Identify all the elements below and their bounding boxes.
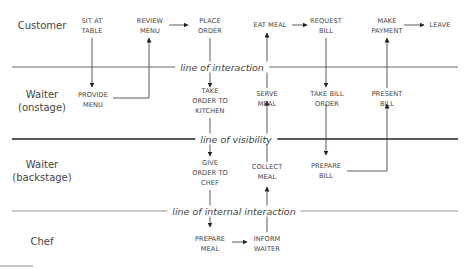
- node-make-payment: MAKE PAYMENT: [371, 16, 402, 36]
- row-label-waiter-onstage: Waiter (onstage): [0, 88, 87, 114]
- arrow-prepare-bill-to-present: [347, 104, 387, 171]
- node-give-order-to-chef: GIVE ORDER TO CHEF: [192, 158, 228, 188]
- line-of-visibility-label: line of visibility: [195, 134, 277, 145]
- node-place-order: PLACE ORDER: [198, 16, 222, 36]
- node-collect-meal: COLLECT MEAL: [252, 162, 283, 182]
- row-label-chef: Chef: [0, 235, 87, 248]
- corner-mark: [0, 265, 33, 267]
- line-of-internal-interaction-label: line of internal interaction: [167, 206, 300, 217]
- row-label-customer: Customer: [0, 19, 87, 32]
- service-blueprint-diagram: line of interaction line of visibility l…: [0, 0, 465, 269]
- node-present-bill: PRESENT BILL: [372, 89, 403, 109]
- node-take-bill-order: TAKE BILL ORDER: [310, 89, 343, 109]
- node-prepare-bill: PREPARE BILL: [311, 161, 341, 181]
- node-leave: LEAVE: [429, 20, 450, 30]
- node-sit-at-table: SIT AT TABLE: [82, 16, 103, 36]
- arrow-provide-menu-to-review: [113, 38, 149, 98]
- node-eat-meal: EAT MEAL: [253, 20, 286, 30]
- node-prepare-meal: PREPARE MEAL: [195, 234, 225, 254]
- node-provide-menu: PROVIDE MENU: [78, 90, 108, 110]
- node-review-menu: REVIEW MENU: [137, 16, 164, 36]
- node-serve-meal: SERVE MEAL: [256, 89, 278, 109]
- line-of-interaction-label: line of interaction: [175, 62, 269, 73]
- node-request-bill: REQUEST BILL: [310, 16, 342, 36]
- node-inform-waiter: INFORM WAITER: [254, 234, 281, 254]
- node-take-order-to-kitchen: TAKE ORDER TO KITCHEN: [192, 86, 228, 116]
- row-label-waiter-backstage: Waiter (backstage): [0, 158, 87, 184]
